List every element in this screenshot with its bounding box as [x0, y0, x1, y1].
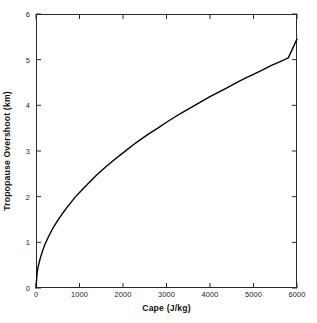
- x-tick-label: 2000: [115, 290, 132, 299]
- x-tick-label: 1000: [71, 290, 88, 299]
- x-tick-label: 3000: [158, 290, 175, 299]
- tick-marks: [36, 14, 297, 288]
- x-tick-label: 5000: [245, 290, 262, 299]
- y-axis-title-text: Tropopause Overshoot (km): [2, 91, 12, 211]
- data-series-line: [36, 39, 297, 288]
- y-axis-title: Tropopause Overshoot (km): [0, 14, 14, 288]
- chart-figure: 0100020003000400050006000 0123456 Cape (…: [0, 0, 317, 323]
- x-tick-label: 6000: [289, 290, 306, 299]
- x-tick-label: 4000: [202, 290, 219, 299]
- plot-canvas: [36, 14, 297, 288]
- x-axis-title: Cape (J/kg): [36, 303, 297, 313]
- x-tick-label: 0: [34, 290, 38, 299]
